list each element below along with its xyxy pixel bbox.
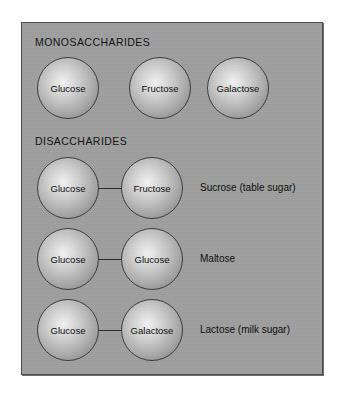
carbohydrates-diagram: MONOSACCHARIDES Glucose Fructose Galacto… [0,0,341,397]
section-heading-disaccharides: DISACCHARIDES [35,135,127,147]
molecule-label: Glucose [135,254,170,265]
molecule-label: Glucose [51,325,86,336]
glycosidic-bond-line [99,259,121,260]
section-heading-monosaccharides: MONOSACCHARIDES [35,36,150,48]
compound-name-lactose: Lactose (milk sugar) [200,324,290,335]
compound-name-maltose: Maltose [200,253,235,264]
diagram-panel: MONOSACCHARIDES Glucose Fructose Galacto… [21,22,323,375]
glycosidic-bond-line [99,188,121,189]
molecule-label: Glucose [51,183,86,194]
molecule-sphere-maltose-left: Glucose [37,228,99,290]
molecule-label: Galactose [131,325,174,336]
molecule-sphere-galactose-mono: Galactose [207,57,269,119]
molecule-sphere-glucose-mono: Glucose [37,57,99,119]
molecule-sphere-lactose-left: Glucose [37,299,99,361]
glycosidic-bond-line [99,330,121,331]
molecule-label: Galactose [217,83,260,94]
molecule-sphere-sucrose-left: Glucose [37,157,99,219]
molecule-sphere-maltose-right: Glucose [121,228,183,290]
molecule-sphere-lactose-right: Galactose [121,299,183,361]
molecule-label: Glucose [51,254,86,265]
molecule-label: Glucose [51,83,86,94]
molecule-label: Fructose [134,183,171,194]
compound-name-sucrose: Sucrose (table sugar) [200,182,296,193]
molecule-sphere-fructose-mono: Fructose [129,57,191,119]
molecule-sphere-sucrose-right: Fructose [121,157,183,219]
molecule-label: Fructose [142,83,179,94]
